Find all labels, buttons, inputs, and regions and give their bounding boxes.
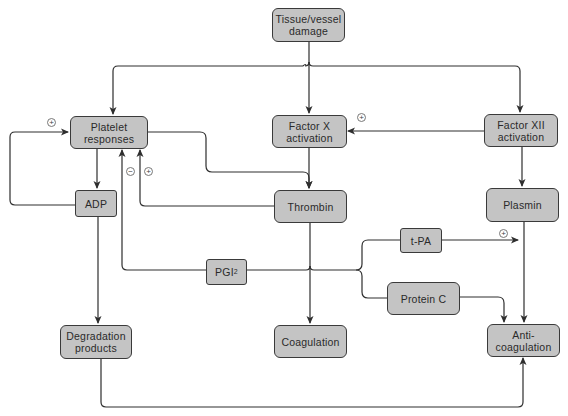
node-factor-xii-activation: Factor XII activation [484, 114, 558, 147]
node-degradation-products: Degradation products [60, 325, 132, 359]
diagram-canvas: Tissue/vessel damage Platelet responses … [0, 0, 568, 416]
minus-sign-icon: − [126, 167, 135, 176]
node-platelet-responses: Platelet responses [70, 116, 148, 149]
plus-sign-icon: + [144, 167, 153, 176]
plus-sign-icon: + [47, 118, 56, 127]
node-protein-c: Protein C [387, 282, 460, 315]
pgi2-label: PGI [215, 266, 234, 278]
node-coagulation: Coagulation [274, 325, 347, 358]
node-factor-x-activation: Factor X activation [272, 115, 347, 148]
node-anti-coagulation: Anti- coagulation [487, 324, 560, 357]
pgi2-subscript: 2 [234, 266, 238, 278]
node-pgi2: PGI2 [206, 259, 247, 285]
node-adp: ADP [75, 190, 117, 217]
node-plasmin: Plasmin [486, 188, 559, 222]
node-thrombin: Thrombin [274, 190, 347, 223]
node-t-pa: t-PA [400, 228, 442, 253]
node-tissue-vessel-damage: Tissue/vessel damage [272, 8, 345, 42]
plus-sign-icon: + [499, 229, 508, 238]
plus-sign-icon: + [357, 113, 366, 122]
